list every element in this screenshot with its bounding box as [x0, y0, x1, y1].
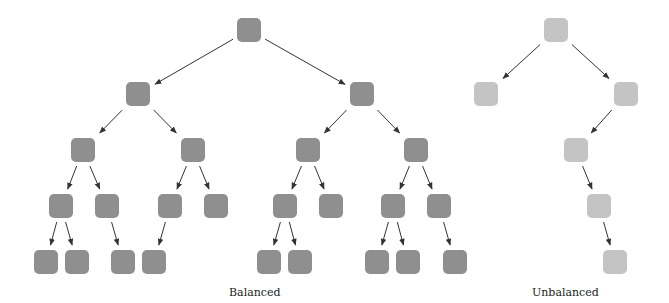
balanced-tree-node	[126, 82, 150, 106]
balanced-tree-node	[181, 138, 205, 162]
edge-arrow	[324, 110, 346, 133]
balanced-tree-node	[404, 138, 428, 162]
tree-diagram	[0, 0, 669, 303]
edge-arrow	[315, 166, 324, 189]
edge-arrow	[400, 166, 409, 189]
edge-arrow	[591, 110, 612, 133]
nodes	[34, 18, 638, 274]
unbalanced-tree-node	[544, 18, 568, 42]
balanced-tree-node	[142, 250, 166, 274]
edge-arrow	[68, 166, 77, 189]
unbalanced-caption: Unbalanced	[532, 286, 599, 299]
edge-arrow	[382, 222, 389, 245]
balanced-tree-node	[257, 250, 281, 274]
balanced-tree-node	[273, 194, 297, 218]
edge-arrow	[154, 110, 177, 133]
balanced-tree-node	[65, 250, 89, 274]
edge-arrow	[51, 222, 57, 245]
edge-arrow	[265, 39, 345, 84]
balanced-tree-node	[296, 138, 320, 162]
edge-arrow	[155, 39, 233, 84]
edge-arrow	[159, 222, 166, 245]
edge-arrow	[112, 222, 119, 245]
edge-arrow	[66, 222, 73, 245]
edge-arrow	[292, 166, 301, 189]
edge-arrow	[100, 110, 123, 133]
edge-arrow	[423, 166, 432, 189]
balanced-tree-node	[350, 82, 374, 106]
edge-arrow	[377, 110, 399, 133]
edge-arrow	[289, 222, 295, 245]
balanced-tree-node	[71, 138, 95, 162]
unbalanced-tree-node	[587, 194, 611, 218]
balanced-tree-node	[237, 18, 261, 42]
balanced-tree-node	[158, 194, 182, 218]
edge-arrow	[397, 222, 403, 245]
balanced-tree-node	[34, 250, 58, 274]
balanced-tree-node	[427, 194, 451, 218]
balanced-tree-node	[288, 250, 312, 274]
edge-arrow	[274, 222, 281, 245]
balanced-tree-node	[49, 194, 73, 218]
edge-arrow	[200, 166, 209, 189]
balanced-caption: Balanced	[229, 286, 281, 299]
balanced-tree-node	[365, 250, 389, 274]
unbalanced-tree-node	[474, 82, 498, 106]
unbalanced-tree-node	[603, 250, 627, 274]
balanced-tree-node	[443, 250, 467, 274]
edge-arrow	[572, 45, 609, 79]
balanced-tree-node	[381, 194, 405, 218]
edge-arrow	[444, 222, 451, 245]
balanced-tree-node	[95, 194, 119, 218]
balanced-tree-node	[111, 250, 135, 274]
edge-arrow	[503, 45, 540, 79]
balanced-tree-node	[319, 194, 343, 218]
edge-arrow	[177, 166, 186, 189]
edge-arrow	[604, 222, 611, 245]
unbalanced-tree-node	[564, 138, 588, 162]
balanced-tree-node	[396, 250, 420, 274]
edge-arrow	[583, 166, 592, 189]
unbalanced-tree-node	[614, 82, 638, 106]
edge-arrow	[90, 166, 100, 189]
balanced-tree-node	[204, 194, 228, 218]
